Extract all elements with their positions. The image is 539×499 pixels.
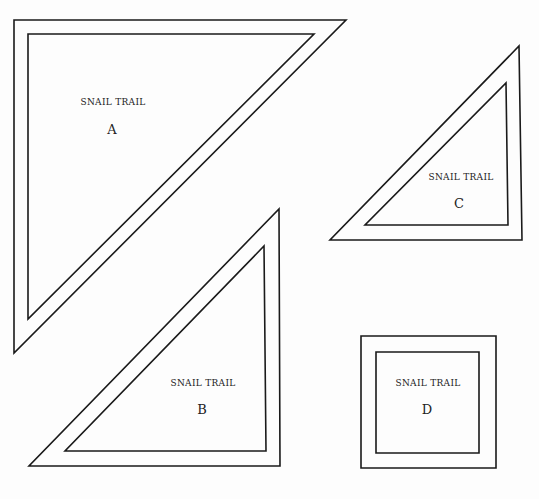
- piece-c-inner-outline: [365, 83, 508, 225]
- quilt-template-sheet: SNAIL TRAIL A SNAIL TRAIL B SNAIL TRAIL …: [0, 0, 539, 499]
- piece-a-outer-outline: [14, 20, 346, 353]
- piece-b-outer-outline: [29, 209, 280, 466]
- piece-c-title: SNAIL TRAIL: [428, 172, 493, 182]
- piece-b-title: SNAIL TRAIL: [170, 378, 235, 388]
- piece-a-title: SNAIL TRAIL: [80, 97, 145, 107]
- piece-c-outer-outline: [330, 46, 522, 240]
- piece-b-letter: B: [197, 402, 207, 417]
- piece-c-letter: C: [454, 196, 464, 211]
- piece-d-title: SNAIL TRAIL: [395, 378, 460, 388]
- template-shapes: [0, 0, 539, 499]
- piece-d-letter: D: [422, 402, 432, 417]
- piece-a-letter: A: [107, 122, 116, 137]
- piece-a-inner-outline: [28, 34, 314, 319]
- piece-b-inner-outline: [65, 246, 266, 451]
